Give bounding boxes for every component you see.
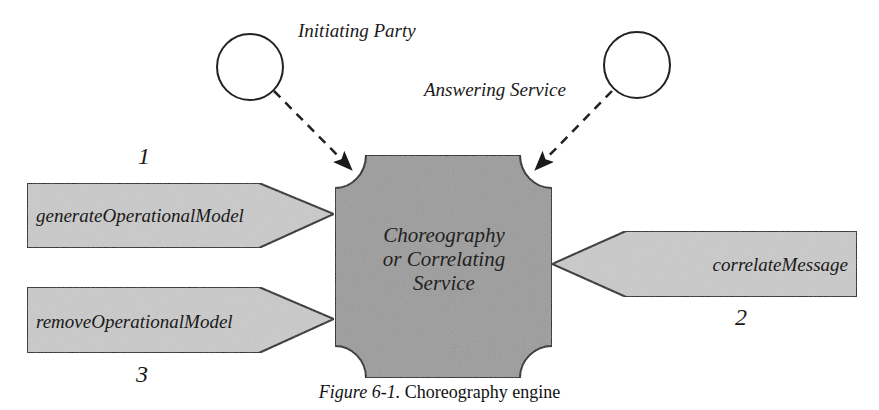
actor-circle-icon xyxy=(604,32,670,98)
dependency-arrow-answering xyxy=(535,91,612,170)
figure-caption: Figure 6-1. Choreography engine xyxy=(0,382,879,403)
step-number: 1 xyxy=(138,143,150,169)
operation-remove-operational-model: removeOperationalModel 3 xyxy=(27,287,334,387)
service-label-line-1: Choreography xyxy=(383,223,505,247)
operation-label: removeOperationalModel xyxy=(36,311,233,332)
operation-generate-operational-model: generateOperationalModel 1 xyxy=(27,143,334,248)
actor-circle-icon xyxy=(217,34,283,100)
operation-label: correlateMessage xyxy=(713,254,848,275)
figure-label: Figure 6-1. xyxy=(319,382,400,402)
dependency-arrow-initiating xyxy=(274,91,352,170)
figure-caption-text: Choreography engine xyxy=(400,382,560,402)
operation-label: generateOperationalModel xyxy=(36,205,244,226)
service-label-line-3: Service xyxy=(413,271,475,295)
actor-answering-service: Answering Service xyxy=(422,32,670,100)
service-label-line-2: or Correlating xyxy=(383,247,505,271)
actor-initiating-party: Initiating Party xyxy=(217,20,416,100)
step-number: 2 xyxy=(735,304,747,330)
choreography-diagram: Initiating Party Answering Service Chore… xyxy=(0,0,879,410)
choreography-service-node: Choreography or Correlating Service xyxy=(335,155,552,378)
actor-label: Answering Service xyxy=(422,79,566,100)
actor-label: Initiating Party xyxy=(297,20,416,41)
operation-correlate-message: correlateMessage 2 xyxy=(552,231,857,330)
